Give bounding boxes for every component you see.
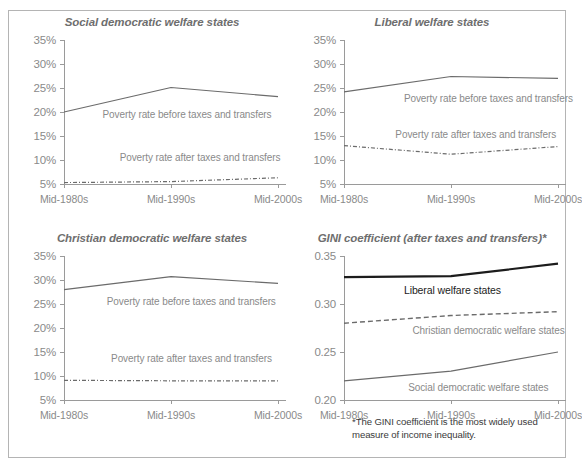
y-tick-label: 10% — [18, 154, 56, 166]
series-label-1: Poverty rate after taxes and transfers — [395, 129, 556, 140]
y-tick-label: 15% — [298, 130, 336, 142]
y-tick-label: 25% — [298, 82, 336, 94]
y-tick-label: 25% — [18, 82, 56, 94]
chart-panel-liberal: Liberal welfare states 5%10%15%20%25%30%… — [298, 16, 566, 216]
series-label-0: Poverty rate before taxes and transfers — [107, 296, 276, 307]
x-tick-label: Mid-1980s — [320, 193, 368, 205]
y-tick-label: 5% — [18, 178, 56, 190]
series-line-0 — [344, 264, 558, 277]
y-tick-label: 30% — [298, 58, 336, 70]
chart-svg-christian-democratic — [18, 250, 286, 430]
y-tick-label: 10% — [298, 154, 336, 166]
x-tick-label: Mid-1980s — [40, 193, 88, 205]
x-tick-label: Mid-1990s — [147, 409, 195, 421]
y-tick-label: 30% — [18, 274, 56, 286]
x-tick-label: Mid-1990s — [147, 193, 195, 205]
series-line-1 — [344, 146, 558, 155]
y-tick-label: 20% — [18, 322, 56, 334]
y-tick-label: 25% — [18, 298, 56, 310]
chart-panel-christian-democratic: Christian democratic welfare states 5%10… — [18, 232, 286, 432]
series-line-0 — [64, 277, 278, 290]
y-tick-label: 5% — [298, 178, 336, 190]
y-tick-label: 35% — [18, 250, 56, 262]
series-label-1: Christian democratic welfare states — [412, 325, 564, 336]
series-label-0: Poverty rate before taxes and transfers — [103, 109, 272, 120]
gini-footnote: *The GINI coefficient is the most widely… — [352, 416, 567, 442]
y-tick-label: 35% — [298, 34, 336, 46]
chart-title-liberal: Liberal welfare states — [298, 16, 566, 28]
x-tick-label: Mid-2000s — [534, 193, 582, 205]
x-tick-label: Mid-1990s — [427, 193, 475, 205]
x-tick-label: Mid-2000s — [254, 409, 302, 421]
series-line-2 — [344, 352, 558, 381]
plot-area-liberal: 5%10%15%20%25%30%35%Mid-1980sMid-1990sMi… — [298, 34, 566, 214]
series-label-1: Poverty rate after taxes and transfers — [111, 353, 272, 364]
y-tick-label: 0.30 — [298, 298, 336, 310]
chart-svg-social-democratic — [18, 34, 286, 214]
y-tick-label: 10% — [18, 370, 56, 382]
series-line-1 — [64, 178, 278, 183]
x-tick-label: Mid-2000s — [254, 193, 302, 205]
chart-svg-gini — [298, 250, 566, 430]
y-tick-label: 15% — [18, 130, 56, 142]
series-label-0: Poverty rate before taxes and transfers — [404, 93, 573, 104]
y-tick-label: 0.35 — [298, 250, 336, 262]
y-tick-label: 20% — [298, 106, 336, 118]
chart-title-christian-democratic: Christian democratic welfare states — [18, 232, 286, 244]
y-tick-label: 35% — [18, 34, 56, 46]
series-label-0: Liberal welfare states — [404, 284, 501, 296]
plot-area-social-democratic: 5%10%15%20%25%30%35%Mid-1980sMid-1990sMi… — [18, 34, 286, 214]
y-tick-label: 20% — [18, 106, 56, 118]
x-tick-label: Mid-1980s — [40, 409, 88, 421]
y-tick-label: 15% — [18, 346, 56, 358]
series-line-0 — [344, 76, 558, 91]
y-tick-label: 30% — [18, 58, 56, 70]
series-line-1 — [344, 312, 558, 324]
chart-panel-social-democratic: Social democratic welfare states 5%10%15… — [18, 16, 286, 216]
plot-area-christian-democratic: 5%10%15%20%25%30%35%Mid-1980sMid-1990sMi… — [18, 250, 286, 430]
plot-area-gini: 0.200.250.300.35Mid-1980sMid-1990sMid-20… — [298, 250, 566, 430]
y-tick-label: 0.20 — [298, 394, 336, 406]
chart-title-social-democratic: Social democratic welfare states — [18, 16, 286, 28]
chart-svg-liberal — [298, 34, 566, 214]
y-tick-label: 5% — [18, 394, 56, 406]
chart-panel-gini: GINI coefficient (after taxes and transf… — [298, 232, 566, 432]
series-label-2: Social democratic welfare states — [408, 382, 548, 393]
chart-title-gini: GINI coefficient (after taxes and transf… — [298, 232, 566, 244]
y-tick-label: 0.25 — [298, 346, 336, 358]
series-label-1: Poverty rate after taxes and transfers — [120, 152, 281, 163]
